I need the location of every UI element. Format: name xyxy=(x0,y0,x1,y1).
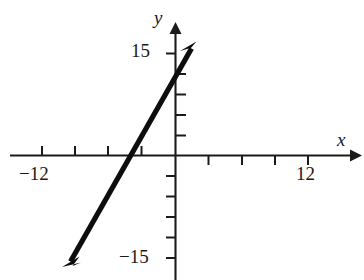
x-axis-label-negative: −12 xyxy=(19,164,49,183)
y-axis-arrow-icon xyxy=(170,22,182,34)
y-axis-label-positive: 15 xyxy=(131,41,150,60)
y-axis-label-negative: −15 xyxy=(119,247,149,266)
y-axis-name: y xyxy=(154,8,162,27)
x-axis-label-positive: 12 xyxy=(296,164,315,183)
graph-figure: −12 12 15 −15 x y xyxy=(0,0,364,280)
x-axis-arrow-icon xyxy=(350,150,362,162)
coordinate-plane xyxy=(0,0,364,280)
x-axis-name: x xyxy=(337,130,345,149)
